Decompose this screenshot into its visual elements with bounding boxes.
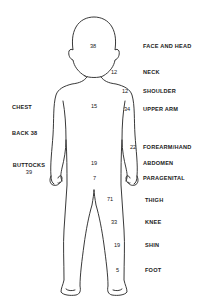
value-chest: 15: [91, 104, 97, 110]
label-back: BACK 38: [12, 131, 37, 137]
label-shoulder: SHOULDER: [143, 89, 176, 95]
label-shin: SHIN: [145, 243, 159, 249]
value-thigh: 71: [107, 197, 113, 203]
value-neck: 12: [111, 70, 117, 76]
value-upper-arm: 34: [124, 107, 130, 113]
label-neck: NECK: [143, 70, 160, 76]
label-chest: CHEST: [12, 105, 32, 111]
value-knee: 33: [111, 220, 117, 226]
label-paragenital: PARAGENITAL: [143, 176, 185, 182]
label-thigh: THIGH: [145, 198, 163, 204]
value-forearm-hand: 22: [130, 145, 136, 151]
value-shoulder: 12: [122, 89, 128, 95]
label-face-and-head: FACE AND HEAD: [143, 44, 191, 50]
label-knee: KNEE: [145, 220, 161, 226]
label-upper-arm: UPPER ARM: [143, 107, 178, 113]
value-abdomen: 19: [91, 161, 97, 167]
value-foot: 5: [116, 268, 119, 274]
value-paragenital: 7: [93, 176, 96, 182]
label-buttocks: BUTTOCKS: [11, 163, 47, 169]
body-region-diagram: 38 12 12 34 22 15 19 7 71 33 19 5 FACE A…: [0, 0, 208, 302]
label-forearm-hand: FOREARM/HAND: [143, 145, 191, 151]
value-shin: 19: [114, 243, 120, 249]
label-foot: FOOT: [145, 268, 161, 274]
value-face-and-head: 38: [90, 44, 96, 50]
value-buttocks: 39: [11, 170, 47, 176]
buttocks-group: BUTTOCKS 39: [11, 163, 47, 175]
label-abdomen: ABDOMEN: [143, 161, 173, 167]
